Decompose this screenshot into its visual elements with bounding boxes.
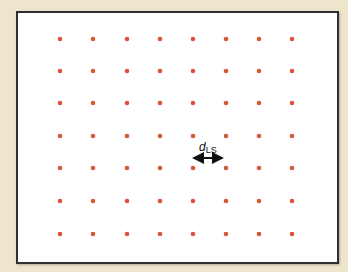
lattice-point: [191, 37, 196, 42]
lattice-point: [257, 101, 262, 106]
spacing-label: dLS: [199, 140, 217, 155]
lattice-point: [58, 134, 63, 139]
lattice-point: [91, 37, 96, 42]
lattice-points: [58, 37, 295, 237]
lattice-point: [191, 101, 196, 106]
lattice-point: [91, 69, 96, 74]
lattice-diagram: dLS: [0, 0, 348, 272]
lattice-point: [58, 101, 63, 106]
lattice-point: [191, 69, 196, 74]
lattice-point: [58, 166, 63, 171]
lattice-point: [257, 232, 262, 237]
lattice-point: [158, 69, 163, 74]
lattice-point: [91, 101, 96, 106]
lattice-point: [224, 166, 229, 171]
lattice-point: [224, 69, 229, 74]
lattice-point: [125, 166, 130, 171]
lattice-point: [158, 232, 163, 237]
lattice-point: [224, 101, 229, 106]
lattice-point: [224, 37, 229, 42]
lattice-point: [290, 232, 295, 237]
lattice-point: [158, 37, 163, 42]
lattice-point: [290, 134, 295, 139]
lattice-point: [224, 199, 229, 204]
lattice-point: [91, 134, 96, 139]
lattice-point: [91, 232, 96, 237]
lattice-point: [125, 134, 130, 139]
lattice-point: [290, 37, 295, 42]
spacing-subscript: LS: [206, 145, 217, 155]
lattice-point: [257, 199, 262, 204]
lattice-point: [58, 232, 63, 237]
lattice-point: [257, 37, 262, 42]
lattice-point: [125, 69, 130, 74]
lattice-point: [224, 232, 229, 237]
lattice-point: [257, 134, 262, 139]
lattice-point: [58, 69, 63, 74]
lattice-point: [290, 166, 295, 171]
lattice-point: [257, 69, 262, 74]
lattice-point: [158, 101, 163, 106]
lattice-point: [191, 199, 196, 204]
lattice-point: [58, 37, 63, 42]
lattice-point: [290, 199, 295, 204]
lattice-point: [125, 199, 130, 204]
lattice-point: [125, 101, 130, 106]
lattice-point: [191, 134, 196, 139]
lattice-point: [125, 37, 130, 42]
lattice-point: [158, 166, 163, 171]
lattice-point: [91, 166, 96, 171]
lattice-point: [158, 199, 163, 204]
lattice-point: [58, 199, 63, 204]
lattice-point: [191, 232, 196, 237]
lattice-point: [91, 199, 96, 204]
lattice-point: [224, 134, 229, 139]
lattice-point: [290, 69, 295, 74]
lattice-point: [125, 232, 130, 237]
lattice-point: [257, 166, 262, 171]
lattice-point: [158, 134, 163, 139]
lattice-point: [290, 101, 295, 106]
lattice-point: [191, 166, 196, 171]
